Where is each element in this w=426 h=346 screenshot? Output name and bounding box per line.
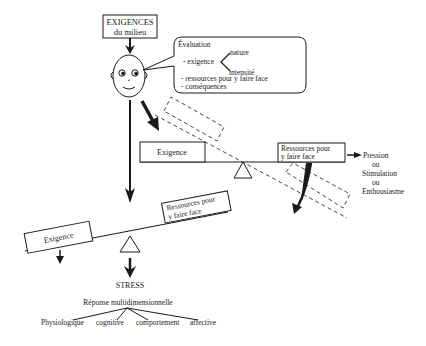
stress-label: STRESS <box>116 281 144 290</box>
dimension-physiologique: Physiologique <box>41 318 85 327</box>
lower-balance: Exigence Ressources pour y faire face <box>24 191 231 264</box>
arrow-right-icon <box>347 152 362 158</box>
outcome-pression: Pression <box>363 151 389 160</box>
person-head-icon <box>111 55 147 97</box>
evaluation-item-exigence: - exigence <box>183 57 215 66</box>
arrow-down-stress-icon <box>124 258 136 278</box>
arrow-down-icon <box>125 38 135 54</box>
demands-box: EXIGENCES du milieu <box>103 15 157 38</box>
upper-ressources-line2: y faire face <box>281 152 315 161</box>
upper-exigence-label: Exigence <box>157 148 187 157</box>
evaluation-bubble: Évaluation - exigence nature intensité -… <box>143 37 306 93</box>
upper-fulcrum-icon <box>234 162 252 178</box>
exigence-down-arrow-icon <box>56 250 64 264</box>
dimension-affective: affective <box>190 318 217 327</box>
demands-title: EXIGENCES <box>106 17 153 27</box>
outcome-enthousiasme: Enthousiasme <box>362 187 405 196</box>
dimension-cognitive: cognitive <box>96 318 125 327</box>
demands-subtitle: du milieu <box>114 27 147 37</box>
response-label: Réponse multidimensionnelle <box>83 298 173 307</box>
lower-fulcrum-icon <box>120 236 140 252</box>
stress-model-diagram: EXIGENCES du milieu Évaluation - exigenc… <box>0 0 426 346</box>
upper-balance: Exigence Ressources pour y faire face <box>140 142 345 178</box>
outcome-stimulation: Stimulation <box>362 169 397 178</box>
evaluation-item-consequences: - conséquences <box>181 82 227 91</box>
arrow-down-long-icon <box>125 100 135 203</box>
outcome-list: Pression ou Stimulation ou Enthousiasme <box>362 151 405 196</box>
evaluation-branch-nature: nature <box>230 48 249 57</box>
outcome-ou-2: ou <box>372 178 380 187</box>
dimension-comportement: comportement <box>136 318 180 327</box>
curved-arrow-icon <box>292 163 311 214</box>
outcome-ou-1: ou <box>372 160 380 169</box>
evaluation-title: Évaluation <box>178 39 211 49</box>
